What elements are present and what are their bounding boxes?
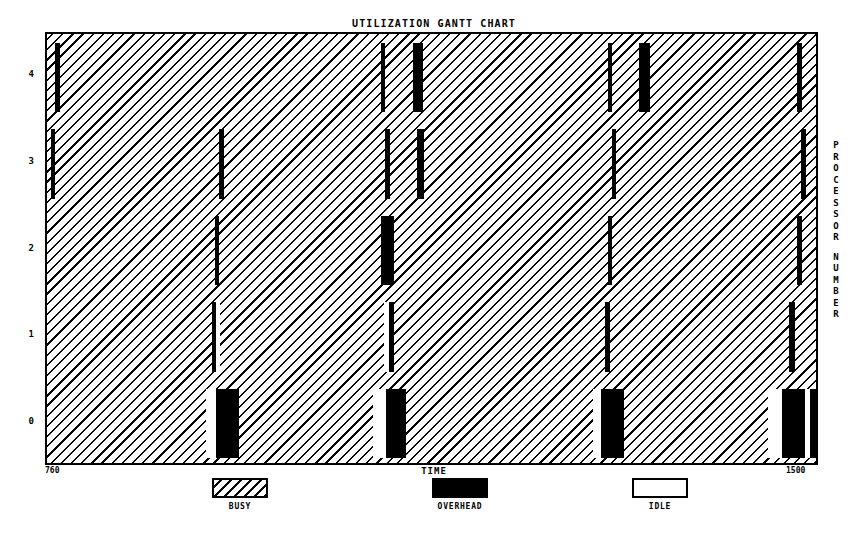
legend-item-idle[interactable]: IDLE	[600, 478, 720, 511]
y-axis-title-letter: E	[828, 186, 844, 198]
chart-legend: BUSYOVERHEADIDLE	[0, 478, 868, 530]
y-axis-tick-4: 4	[8, 69, 34, 79]
y-axis-title-letter	[828, 244, 844, 252]
y-axis-title-letter: N	[828, 252, 844, 264]
y-axis-title-letter: E	[828, 298, 844, 310]
segment-overhead	[216, 389, 239, 458]
processor-row-0	[47, 389, 816, 458]
segment-overhead	[797, 216, 802, 285]
legend-swatch-overhead	[432, 478, 488, 498]
legend-label-busy: BUSY	[180, 502, 300, 511]
y-axis-title-letter: B	[828, 286, 844, 298]
segment-overhead	[417, 129, 424, 198]
x-axis-title: TIME	[0, 466, 868, 476]
segment-overhead	[797, 43, 802, 112]
y-axis-tick-1: 1	[8, 329, 34, 339]
processor-rows	[47, 34, 816, 463]
y-axis-title: PROCESSORNUMBER	[828, 140, 844, 321]
segment-overhead	[51, 129, 55, 198]
segment-overhead	[612, 129, 616, 198]
segment-overhead	[381, 216, 394, 285]
y-axis-title-letter: S	[828, 209, 844, 221]
segment-overhead	[608, 216, 612, 285]
legend-label-idle: IDLE	[600, 502, 720, 511]
processor-row-4	[47, 43, 816, 112]
y-axis-title-letter: C	[828, 175, 844, 187]
segment-overhead	[386, 389, 406, 458]
segment-overhead	[215, 216, 219, 285]
segment-idle	[206, 389, 216, 458]
segment-overhead	[810, 389, 817, 458]
legend-swatch-busy	[212, 478, 268, 498]
segment-overhead	[605, 302, 610, 371]
processor-row-3	[47, 129, 816, 198]
y-axis-title-letter: M	[828, 275, 844, 287]
segment-overhead	[385, 129, 389, 198]
processor-row-1	[47, 302, 816, 371]
y-axis-tick-3: 3	[8, 156, 34, 166]
segment-overhead	[801, 129, 806, 198]
segment-overhead	[601, 389, 624, 458]
plot-area	[45, 32, 818, 465]
segment-overhead	[789, 302, 795, 371]
segment-idle	[593, 389, 600, 458]
legend-item-busy[interactable]: BUSY	[180, 478, 300, 511]
legend-swatch-idle	[632, 478, 688, 498]
segment-overhead	[381, 43, 385, 112]
y-axis-title-letter: S	[828, 198, 844, 210]
y-axis-title-letter: P	[828, 140, 844, 152]
y-axis-title-letter: R	[828, 152, 844, 164]
segment-idle	[373, 389, 387, 458]
segment-overhead	[413, 43, 423, 112]
y-axis-tick-0: 0	[8, 416, 34, 426]
segment-overhead	[782, 389, 805, 458]
y-axis-title-letter: U	[828, 263, 844, 275]
segment-idle	[768, 389, 783, 458]
segment-overhead	[389, 302, 394, 371]
y-axis-tick-2: 2	[8, 243, 34, 253]
segment-overhead	[639, 43, 649, 112]
segment-overhead	[608, 43, 612, 112]
segment-idle	[216, 302, 220, 371]
chart-title: UTILIZATION GANTT CHART	[0, 18, 868, 29]
gantt-chart-figure: UTILIZATION GANTT CHART 01234 760 1500 T…	[0, 0, 868, 538]
segment-overhead	[55, 43, 59, 112]
y-axis-title-letter: R	[828, 232, 844, 244]
y-axis-title-letter: R	[828, 309, 844, 321]
legend-item-overhead[interactable]: OVERHEAD	[400, 478, 520, 511]
processor-row-2	[47, 216, 816, 285]
segment-overhead	[219, 129, 223, 198]
y-axis-title-letter: O	[828, 221, 844, 233]
legend-label-overhead: OVERHEAD	[400, 502, 520, 511]
y-axis-title-letter: O	[828, 163, 844, 175]
